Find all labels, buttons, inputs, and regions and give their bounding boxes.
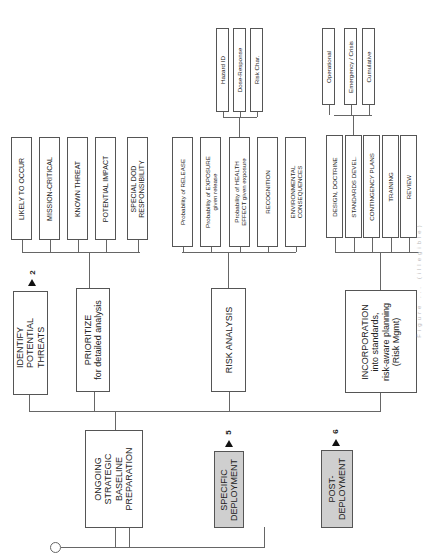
health-substep-box: Risk Char.	[250, 28, 263, 112]
health-substep-box-label: Risk Char.	[253, 56, 260, 85]
specific-deployment-box: SPECIFIC DEPLOYMENT	[214, 451, 244, 528]
connector	[29, 395, 30, 411]
connector	[296, 247, 297, 252]
connector	[380, 252, 381, 290]
health-substep-box-label: Dose-Response	[236, 48, 243, 92]
connector	[78, 240, 79, 252]
connector	[89, 252, 90, 288]
risk-factor-box-label: Probability of HEALTH EFFECT given expos…	[232, 158, 246, 226]
criteria-box-label: KNOWN THREAT	[73, 160, 81, 216]
connector	[409, 238, 410, 252]
risk-analysis-label: RISK ANALYSIS	[223, 307, 233, 373]
connector	[239, 117, 240, 137]
incorporation-item-box: STANDARDS DEVEL.	[345, 135, 362, 238]
health-substep-box-label: Hazard ID	[219, 56, 226, 84]
criteria-box-label: SPECIAL DOD RESPONSIBILITY	[129, 160, 145, 218]
criteria-box: SPECIAL DOD RESPONSIBILITY	[127, 137, 148, 240]
connector	[211, 247, 212, 252]
incorporation-item-box-label: CONTINGENCY PLANS	[368, 153, 375, 221]
connector	[50, 240, 51, 252]
incorporation-item-box-label: REVIEW	[405, 174, 412, 198]
connector	[129, 527, 130, 548]
connector	[354, 238, 355, 252]
risk-factor-box-label: Probability of EXPOSURE given release	[203, 156, 217, 228]
ref-6: 6	[331, 429, 340, 433]
arrow-to-6-icon	[332, 439, 340, 446]
incorporation-label: INCORPORATION into standards, risk-aware…	[360, 302, 401, 380]
connector	[183, 247, 184, 252]
phase-spine-line	[61, 547, 265, 548]
standards-substep-box-label: Cumulative	[365, 51, 372, 82]
risk-analysis-box: RISK ANALYSIS	[211, 288, 246, 392]
standards-substep-box: Emergency / Crisis	[344, 28, 357, 105]
criteria-box: POTENTIAL IMPACT	[95, 137, 116, 240]
risk-factor-box: ENVIRONMENTAL CONSEQUENCES	[285, 137, 306, 247]
incorporation-item-box-label: STANDARDS DEVEL.	[350, 156, 357, 217]
connector	[228, 252, 229, 288]
identify-threats-box: IDENTIFY POTENTIAL THREATS	[13, 291, 48, 395]
risk-factor-box-label: Probability of RELEASE	[179, 159, 186, 225]
figure-caption-text: Figure ... (illegible)	[416, 222, 422, 337]
criteria-connector	[22, 252, 140, 253]
incorporation-box: INCORPORATION into standards, risk-aware…	[345, 290, 417, 393]
connector	[240, 112, 241, 117]
start-node	[50, 542, 61, 553]
steps-spine-line	[29, 411, 381, 412]
connector	[115, 527, 116, 548]
risk-factor-box: Probability of RELEASE	[172, 137, 193, 247]
connector	[335, 238, 336, 252]
connector	[353, 115, 354, 137]
criteria-box: KNOWN THREAT	[67, 137, 88, 240]
connector	[138, 240, 139, 252]
connector	[115, 411, 116, 431]
incorporation-item-box: DESIGN, DOCTRINE	[326, 135, 343, 238]
standards-substep-box: Operational	[322, 28, 335, 105]
risk-factors-connector	[182, 252, 296, 253]
arrow-to-5-icon	[225, 440, 233, 447]
health-substep-box: Hazard ID	[216, 28, 229, 112]
connector	[22, 240, 23, 252]
specific-deployment-label: SPECIFIC DEPLOYMENT	[219, 458, 240, 520]
risk-factor-box-label: ENVIRONMENTAL CONSEQUENCES	[288, 166, 302, 219]
connector	[223, 112, 224, 117]
criteria-box-label: MISSION-CRITICAL	[45, 157, 53, 221]
baseline-phase-box: ONGOING STRATEGIC BASELINE PREPARATION	[85, 430, 143, 528]
prioritize-label: PRIORITIZE for detailed analysis	[83, 300, 104, 380]
connector	[372, 238, 373, 252]
incorporation-item-box-label: TRAINING	[387, 172, 394, 202]
incorporation-item-box: TRAINING	[382, 135, 399, 238]
ref-2: 2	[28, 270, 37, 274]
connector	[380, 392, 381, 411]
risk-factor-box: Probability of EXPOSURE given release	[200, 137, 221, 247]
arrow-to-2-icon	[28, 279, 36, 286]
incorporation-item-box: CONTINGENCY PLANS	[363, 135, 380, 238]
connector	[229, 392, 230, 411]
incorporation-item-box-label: DESIGN, DOCTRINE	[331, 157, 338, 216]
connector	[391, 238, 392, 252]
connector	[329, 105, 330, 115]
health-substep-box: Dose-Response	[233, 28, 246, 112]
standards-substep-box: Cumulative	[362, 28, 375, 105]
connector	[264, 527, 265, 548]
identify-threats-label: IDENTIFY POTENTIAL THREATS	[15, 318, 46, 368]
criteria-box-label: LIKELY TO OCCUR	[17, 157, 25, 219]
prioritize-box: PRIORITIZE for detailed analysis	[76, 288, 110, 392]
risk-factor-box-label: RECOGNITION	[264, 170, 271, 214]
criteria-box-label: POTENTIAL IMPACT	[101, 155, 109, 222]
criteria-box: LIKELY TO OCCUR	[11, 137, 32, 240]
prioritize-title: PRIORITIZE	[83, 300, 93, 380]
connector	[106, 240, 107, 252]
ref-5: 5	[224, 430, 233, 434]
baseline-phase-label: ONGOING STRATEGIC BASELINE PREPARATION	[93, 447, 134, 510]
criteria-box: MISSION-CRITICAL	[39, 137, 60, 240]
health-substeps-connector	[223, 117, 257, 118]
figure-caption: Figure ... (illegible)	[413, 60, 425, 500]
prioritize-subtitle: for detailed analysis	[93, 300, 103, 380]
post-deployment-label: POST- DEPLOYMENT	[327, 458, 348, 520]
risk-factor-box: RECOGNITION	[257, 137, 278, 247]
standards-substep-box-label: Emergency / Crisis	[347, 41, 354, 93]
connector	[369, 105, 370, 115]
connector	[240, 247, 241, 252]
standards-substep-box-label: Operational	[325, 51, 332, 83]
connector	[351, 105, 352, 115]
